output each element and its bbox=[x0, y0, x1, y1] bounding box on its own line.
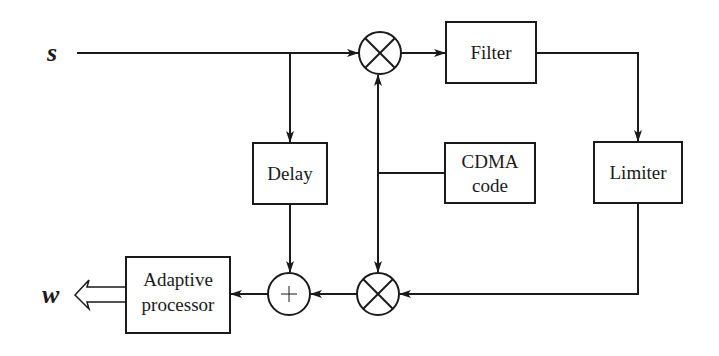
adaptive-label-line1: Adaptive bbox=[143, 269, 213, 290]
cdma-label-line1: CDMA bbox=[461, 151, 518, 172]
top-multiplier-icon bbox=[359, 32, 401, 74]
adaptive-label-line2: processor bbox=[142, 294, 215, 315]
limiter-label: Limiter bbox=[610, 162, 668, 183]
cdma-label-line2: code bbox=[472, 175, 508, 196]
filter-label: Filter bbox=[470, 42, 512, 63]
output-hollow-arrow-icon bbox=[75, 280, 126, 309]
wire-filter-to-limiter bbox=[536, 53, 638, 141]
wire-limiter-to-bottom-multiplier bbox=[400, 203, 638, 294]
input-signal-label: s bbox=[46, 38, 57, 67]
summer-icon bbox=[268, 273, 310, 315]
delay-label: Delay bbox=[267, 163, 313, 184]
output-signal-label: w bbox=[42, 280, 60, 309]
bottom-multiplier-icon bbox=[357, 273, 399, 315]
block-diagram: s w Filter Limiter Delay CDMA code Adapt… bbox=[0, 0, 719, 356]
